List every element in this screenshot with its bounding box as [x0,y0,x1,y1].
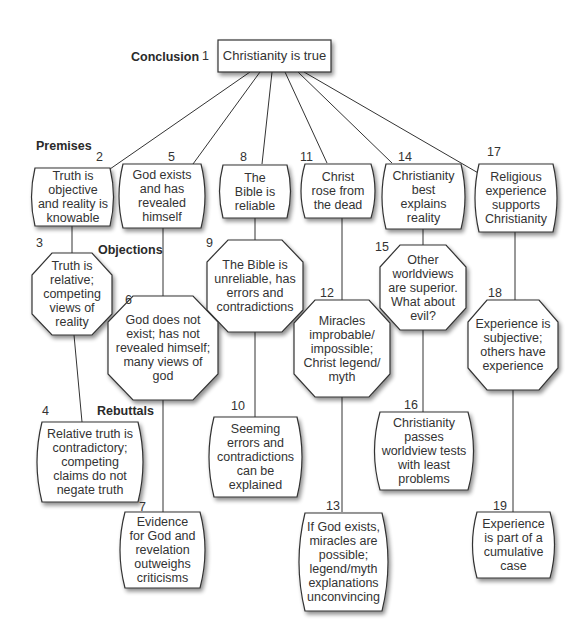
edge-1-8 [262,72,272,164]
node-4-text: Relative truth is contradictory; competi… [37,422,143,502]
node-number: 17 [487,145,501,159]
node-number: 18 [488,286,502,300]
node-number: 16 [404,398,418,412]
node-3-text: Truth is relative; competing views of re… [32,253,112,335]
node-16-text: Christianity passes worldview tests with… [375,412,473,490]
node-9-text: The Bible is unreliable, has errors and … [207,240,303,332]
node-19-text: Experience is part of a cumulative case [473,512,554,578]
node-5-text: God exists and has revealed himself [122,164,202,228]
node-number: 14 [398,150,412,164]
node-7-text: Evidence for God and revelation outweigh… [120,512,205,588]
node-17-text: Religious experience supports Christiani… [478,164,554,232]
node-number: 8 [240,150,247,164]
node-number: 11 [300,150,313,164]
node-11-text: Christ rose from the dead [303,164,373,218]
edge-1-2 [110,72,250,169]
label-conclusion: Conclusion [131,50,199,64]
node-number: 10 [231,399,245,413]
node-number: 5 [168,150,175,164]
node-15-text: Other worldviews are superior. What abou… [380,245,466,330]
edge-1-17 [304,72,480,174]
node-2-text: Truth is objective and reality is knowab… [33,168,113,226]
node-number: 2 [96,150,103,164]
node-number: 12 [320,286,334,300]
node-number: 19 [493,499,507,513]
node-number: 1 [202,49,209,63]
node-12-text: Miracles improbable/ impossible; Christ … [294,300,390,397]
node-number: 3 [36,236,43,250]
edge-3-4 [74,335,82,422]
node-14-text: Christianity best explains reality [385,164,462,229]
node-18-text: Experience is subjective; others have ex… [468,300,558,390]
node-13-text: If God exists, miracles are possible; le… [299,513,388,611]
node-number: 4 [42,404,49,418]
node-8-text: The Bible is reliable [222,165,288,218]
node-10-text: Seeming errors and contradictions can be… [209,417,302,497]
label-rebuttals: Rebuttals [97,404,154,418]
node-1-text: Christianity is true [218,40,331,72]
node-number: 13 [326,499,340,513]
node-6-text: God does not exist; has not revealed him… [108,296,218,400]
label-premises: Premises [36,139,92,153]
edge-1-5 [193,72,260,164]
